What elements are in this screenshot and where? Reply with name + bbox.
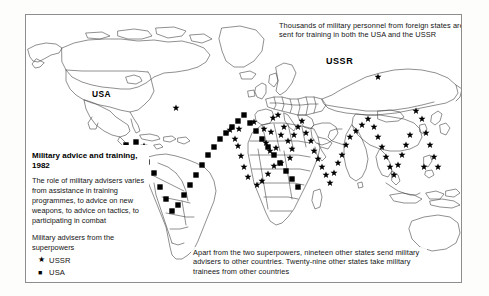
legend-label-ussr: USSR [49,256,71,265]
star-marker-icon: ★ [38,256,49,264]
country-label-usa: USA [92,89,111,100]
ussr-marker-group [141,73,442,188]
legend-item-ussr: ★ USSR [32,256,145,265]
caption-legend-panel: Military advice and training, 1982 The r… [27,145,149,283]
figure-title: Military advice and training, 1982 [32,151,145,172]
note-other-states: Apart from the two superpowers, nineteen… [191,247,427,277]
figure-description: The role of military advisers varies fro… [32,176,145,226]
legend-title: Military advisers from the superpowers [32,233,145,253]
square-marker-icon: ■ [38,269,49,276]
legend-item-usa: ■ USA [32,268,145,277]
note-training-superpowers: Thousands of military personnel from for… [277,20,462,41]
page-canvas: Thousands of military personnel from for… [0,0,489,296]
legend-label-usa: USA [49,268,65,277]
world-map-figure: Thousands of military personnel from for… [25,14,462,283]
country-label-ussr: USSR [326,56,353,67]
